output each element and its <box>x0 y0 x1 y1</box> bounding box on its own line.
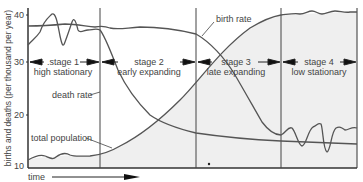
death-rate-annotation: death rate <box>52 90 93 100</box>
stage-1-name: .stage 1 <box>47 57 79 67</box>
y-tick-30: 30 <box>14 57 24 67</box>
y-tick-40: 40 <box>14 10 24 20</box>
stage-2-desc: early expanding <box>117 67 181 77</box>
stray-dot <box>208 163 210 165</box>
stage-4-desc: low stationary <box>291 67 347 77</box>
stage-2-name: stage 2 <box>134 57 164 67</box>
stage-1-desc: high stationary <box>34 67 93 77</box>
stage-3-desc: late expanding <box>207 67 266 77</box>
y-tick-10: 10 <box>14 161 24 171</box>
birth-rate-annotation: birth rate <box>216 14 252 24</box>
stage-4-name: stage 4 <box>304 57 334 67</box>
stage-3-name: stage 3 <box>221 57 251 67</box>
y-axis-label: births and deaths (per thousand per year… <box>3 10 13 167</box>
y-tick-20: 20 <box>14 110 24 120</box>
demographic-transition-chart: 40 30 20 10 births and deaths (per thous… <box>0 0 363 182</box>
x-axis-label: time <box>28 172 45 182</box>
total-population-annotation: total population <box>31 133 92 143</box>
